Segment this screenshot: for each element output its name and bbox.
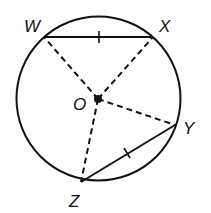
label-o: O [73,95,86,114]
radius-ox [98,37,153,99]
radius-oy [98,99,175,125]
label-x: X [158,17,171,36]
label-w: W [24,17,42,36]
label-y: Y [183,119,196,138]
radius-ow [44,37,98,99]
label-z: Z [68,192,80,211]
center-point-o [94,95,102,103]
circle-diagram: W X O Y Z [0,0,211,213]
